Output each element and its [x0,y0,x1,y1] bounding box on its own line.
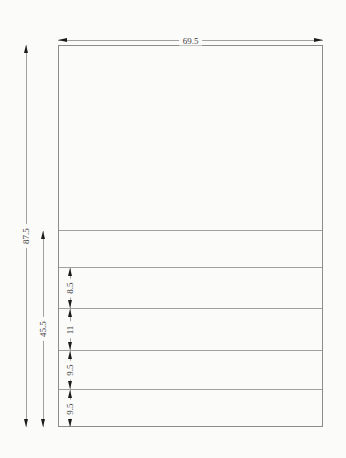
arrow-down-icon [68,419,72,427]
outer-rectangle [58,45,323,427]
dim-section-2: 11 [70,309,71,350]
division-line-1 [59,230,322,231]
dim-lower-height-label: 45.5 [39,317,48,341]
arrow-right-icon [314,38,323,42]
arrow-down-icon [41,419,45,427]
dim-section-1-label: 8.5 [66,278,75,297]
dim-section-1: 8.5 [70,268,71,308]
arrow-down-icon [24,419,28,427]
arrow-up-icon [68,309,72,317]
division-line-3 [59,308,322,309]
arrow-up-icon [24,45,28,53]
dim-section-2-label: 11 [66,321,75,338]
division-line-2 [59,267,322,268]
arrow-up-icon [41,231,45,239]
dim-section-4-label: 9.5 [66,399,75,418]
dim-section-3-label: 9.5 [66,360,75,379]
dim-total-height-label: 87.5 [22,224,31,248]
dim-section-4: 9.5 [70,390,71,427]
arrow-up-icon [68,268,72,276]
technical-drawing: 69.5 87.5 45.5 8.5 11 9.5 [0,0,346,458]
arrow-down-icon [68,300,72,308]
dim-section-3: 9.5 [70,351,71,389]
division-line-5 [59,389,322,390]
arrow-down-icon [68,342,72,350]
dim-width: 69.5 [58,40,323,41]
arrow-down-icon [68,381,72,389]
dim-lower-height: 45.5 [43,231,44,427]
arrow-left-icon [58,38,67,42]
dim-total-height: 87.5 [26,45,27,427]
arrow-up-icon [68,351,72,359]
dim-width-label: 69.5 [179,36,203,45]
division-line-4 [59,350,322,351]
arrow-up-icon [68,390,72,398]
